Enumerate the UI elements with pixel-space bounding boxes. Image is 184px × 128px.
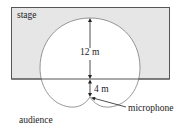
audience-label: audience (19, 116, 53, 126)
distance-lower-label: 4 m (94, 85, 109, 95)
microphone-label: microphone (128, 104, 173, 114)
distance-upper-label: 12 m (80, 48, 99, 58)
stage-label: stage (17, 11, 37, 21)
